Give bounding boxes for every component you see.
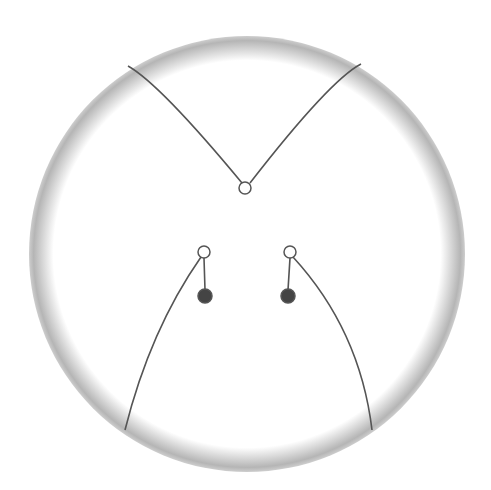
node-left-open (198, 246, 210, 258)
stem-left (204, 258, 205, 290)
node-right-open (284, 246, 296, 258)
node-right-filled (281, 289, 295, 303)
node-top-junction (239, 182, 251, 194)
diagram-canvas (0, 0, 491, 490)
node-left-filled (198, 289, 212, 303)
inner-disc (53, 60, 441, 448)
